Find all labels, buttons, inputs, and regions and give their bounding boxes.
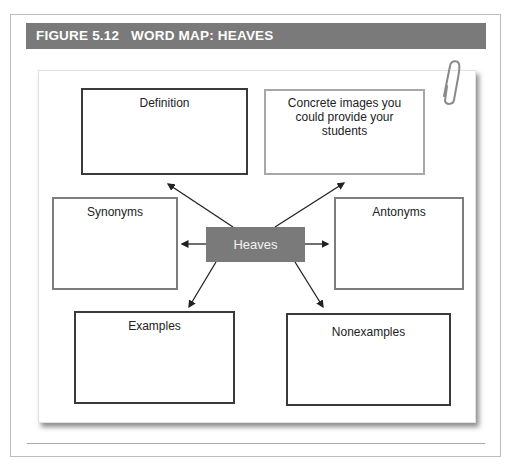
arrow-to-nonexamples [295, 262, 323, 307]
definition-label: Definition [83, 90, 246, 110]
center-word: Heaves [206, 227, 305, 262]
examples-label: Examples [76, 313, 233, 333]
concrete-images-box: Concrete images you could provide your s… [264, 89, 425, 175]
nonexamples-box: Nonexamples [286, 313, 451, 406]
antonyms-label: Antonyms [336, 199, 462, 219]
nonexamples-label: Nonexamples [288, 315, 449, 339]
paperclip-icon [436, 58, 466, 108]
concrete-images-label: Concrete images you could provide your s… [266, 91, 423, 138]
examples-box: Examples [74, 311, 235, 404]
synonyms-box: Synonyms [52, 197, 178, 290]
arrow-to-examples [189, 262, 216, 307]
synonyms-label: Synonyms [54, 199, 176, 219]
definition-box: Definition [81, 88, 248, 175]
bottom-rule [27, 443, 485, 444]
antonyms-box: Antonyms [334, 197, 464, 290]
